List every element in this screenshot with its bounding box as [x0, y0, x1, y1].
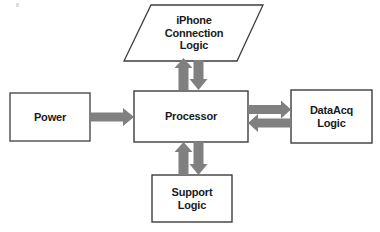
arrow-power-to-processor	[90, 108, 134, 126]
node-shape-iphone-connection-logic[interactable]	[124, 5, 263, 61]
arrow-processor-to-dataacq	[248, 101, 291, 119]
arrow-iphone-to-processor	[175, 58, 193, 90]
node-shape-dataacq-logic[interactable]	[291, 90, 372, 143]
node-shape-processor[interactable]	[134, 91, 248, 142]
arrow-processor-to-support	[190, 142, 208, 175]
node-shape-support-logic[interactable]	[152, 175, 232, 222]
arrow-processor-to-iphone	[190, 60, 208, 90]
diagram-canvas: iPhone Connection Logic Power Processor …	[0, 0, 380, 232]
node-shape-power[interactable]	[10, 93, 90, 141]
arrow-support-to-processor	[175, 142, 193, 175]
arrow-dataacq-to-processor	[248, 114, 291, 132]
diagram-graphics	[0, 0, 380, 232]
